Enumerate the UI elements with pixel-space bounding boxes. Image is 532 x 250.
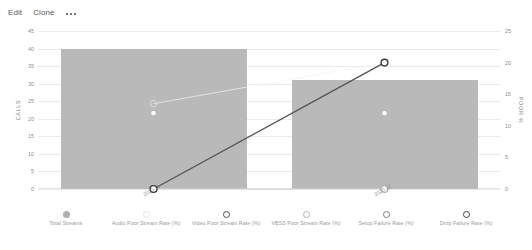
legend-item-label: Drop Failure Rate (%)	[440, 220, 493, 226]
legend-item-label: Video Poor Stream Rate (%)	[192, 220, 260, 226]
y-axis-tick-label: 15	[28, 133, 34, 139]
legend-marker-icon	[143, 211, 150, 218]
legend-item[interactable]: Setup Failure Rate (%)	[346, 211, 426, 226]
y-axis-tick-label: 25	[28, 98, 34, 104]
data-point-marker[interactable]	[151, 111, 155, 115]
more-options-icon[interactable]	[66, 11, 77, 16]
chart-widget: Edit Clone CALLS POOR % 0510152025303540…	[0, 0, 532, 250]
chart-legend: Total StreamsAudio Poor Stream Rate (%)V…	[0, 211, 532, 226]
y-axis-title: CALLS	[15, 100, 21, 121]
y-axis-tick-label: 5	[31, 168, 34, 174]
legend-item-label: Audio Poor Stream Rate (%)	[112, 220, 180, 226]
y-axis-tick-label: 30	[28, 81, 34, 87]
y-axis-tick-label: 35	[28, 63, 34, 69]
legend-marker-icon	[383, 211, 390, 218]
y-axis-tick-label: 10	[28, 151, 34, 157]
data-point-marker[interactable]	[382, 111, 386, 115]
plot-area: CALLS POOR % 051015202530354045051015202…	[38, 31, 500, 189]
widget-toolbar: Edit Clone	[8, 6, 76, 20]
legend-item[interactable]: Total Streams	[26, 211, 106, 226]
y-axis-tick-label: 0	[31, 186, 34, 192]
legend-marker-icon	[463, 211, 470, 218]
y2-axis-tick-label: 0	[505, 186, 508, 192]
y2-axis-tick-label: 25	[505, 28, 511, 34]
legend-item[interactable]: Audio Poor Stream Rate (%)	[106, 211, 186, 226]
series-line	[154, 63, 385, 104]
legend-marker-icon	[303, 211, 310, 218]
edit-button[interactable]: Edit	[8, 8, 22, 18]
legend-item-label: VBSS Poor Stream Rate (%)	[272, 220, 341, 226]
y2-axis-tick-label: 10	[505, 123, 511, 129]
data-point-marker[interactable]	[150, 100, 156, 106]
y-axis-tick-label: 20	[28, 116, 34, 122]
data-point-marker[interactable]	[381, 59, 388, 66]
series-line	[154, 63, 385, 189]
legend-marker-icon	[223, 211, 230, 218]
legend-item-label: Setup Failure Rate (%)	[359, 220, 414, 226]
line-series-layer	[38, 31, 500, 189]
legend-item[interactable]: Drop Failure Rate (%)	[426, 211, 506, 226]
legend-marker-icon	[63, 211, 70, 218]
y2-axis-tick-label: 15	[505, 91, 511, 97]
legend-item-label: Total Streams	[49, 220, 82, 226]
y-axis-tick-label: 40	[28, 46, 34, 52]
legend-item[interactable]: VBSS Poor Stream Rate (%)	[266, 211, 346, 226]
y2-axis-tick-label: 20	[505, 60, 511, 66]
y-axis-tick-label: 45	[28, 28, 34, 34]
legend-item[interactable]: Video Poor Stream Rate (%)	[186, 211, 266, 226]
y2-axis-title: POOR %	[518, 97, 524, 123]
y2-axis-tick-label: 5	[505, 154, 508, 160]
clone-button[interactable]: Clone	[33, 8, 54, 18]
